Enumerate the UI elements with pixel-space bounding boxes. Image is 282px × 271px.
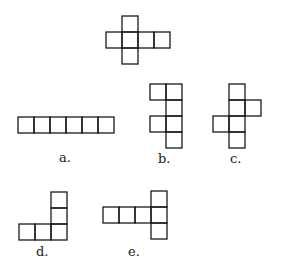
square-cell bbox=[106, 32, 122, 48]
shape-reference bbox=[106, 16, 170, 64]
square-cell bbox=[122, 16, 138, 32]
square-cell bbox=[166, 116, 182, 132]
square-cell bbox=[166, 132, 182, 148]
square-cell bbox=[245, 100, 261, 116]
square-cell bbox=[151, 207, 167, 223]
label-a: a. bbox=[59, 151, 71, 164]
square-cell bbox=[229, 100, 245, 116]
square-cell bbox=[122, 32, 138, 48]
square-cell bbox=[135, 207, 151, 223]
square-cell bbox=[50, 117, 66, 133]
net-shapes-svg bbox=[0, 0, 282, 271]
square-cell bbox=[98, 117, 114, 133]
square-cell bbox=[213, 116, 229, 132]
square-cell bbox=[119, 207, 135, 223]
square-cell bbox=[154, 32, 170, 48]
label-d: d. bbox=[36, 245, 48, 258]
square-cell bbox=[229, 132, 245, 148]
square-cell bbox=[166, 100, 182, 116]
square-cell bbox=[82, 117, 98, 133]
square-cell bbox=[229, 84, 245, 100]
square-cell bbox=[51, 192, 67, 208]
square-cell bbox=[34, 117, 50, 133]
square-cell bbox=[150, 116, 166, 132]
shape-e bbox=[103, 191, 167, 239]
shape-d bbox=[19, 192, 67, 240]
square-cell bbox=[151, 223, 167, 239]
shape-a bbox=[18, 117, 114, 133]
label-b: b. bbox=[158, 152, 170, 165]
square-cell bbox=[51, 224, 67, 240]
square-cell bbox=[151, 191, 167, 207]
square-cell bbox=[150, 84, 166, 100]
square-cell bbox=[103, 207, 119, 223]
square-cell bbox=[122, 48, 138, 64]
shape-c bbox=[213, 84, 261, 148]
square-cell bbox=[51, 208, 67, 224]
diagram-canvas: a. b. c. d. e. bbox=[0, 0, 282, 271]
square-cell bbox=[35, 224, 51, 240]
square-cell bbox=[229, 116, 245, 132]
square-cell bbox=[166, 84, 182, 100]
shape-b bbox=[150, 84, 182, 148]
label-e: e. bbox=[128, 245, 140, 258]
square-cell bbox=[19, 224, 35, 240]
square-cell bbox=[18, 117, 34, 133]
square-cell bbox=[138, 32, 154, 48]
square-cell bbox=[66, 117, 82, 133]
label-c: c. bbox=[230, 152, 241, 165]
